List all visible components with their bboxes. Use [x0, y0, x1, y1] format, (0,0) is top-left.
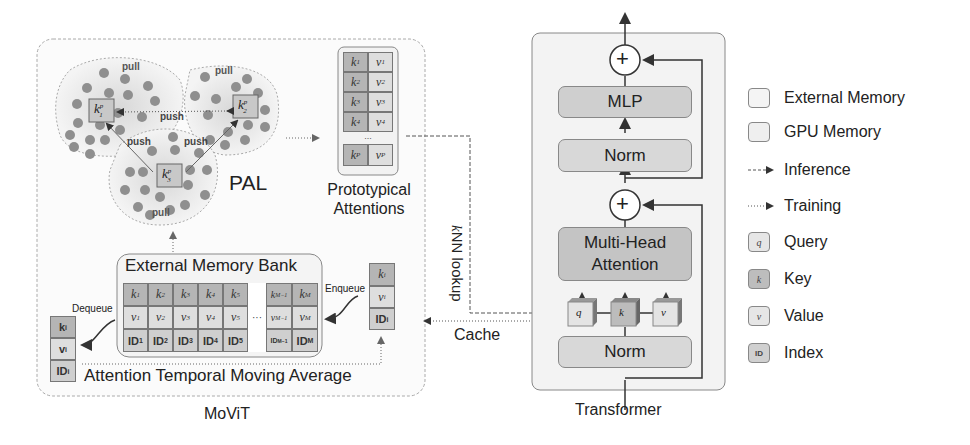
- mlp-block: MLP: [558, 86, 692, 118]
- bank-v-m: vM: [292, 306, 318, 329]
- push-label-top: push: [160, 111, 184, 122]
- norm-block-bottom: Norm: [558, 336, 692, 368]
- push-label-right: push: [184, 136, 208, 147]
- dequeued-v: vi: [50, 338, 76, 360]
- pull-label-2: pull: [215, 65, 233, 76]
- proto-v-3: v3: [368, 92, 393, 112]
- knn-lookup-label: kNN lookup: [448, 225, 466, 302]
- key-swatch-icon: k: [748, 269, 770, 289]
- proto-k-1: k1: [343, 52, 368, 72]
- bank-v-3: v3: [173, 306, 198, 329]
- dequeued-id: IDi: [50, 360, 76, 382]
- dequeued-item: ki vi IDi: [50, 316, 76, 382]
- plus-icon-top: +: [616, 47, 629, 71]
- enqueue-label: Enqueue: [325, 283, 365, 294]
- bank-ellipsis: ···: [248, 283, 266, 352]
- push-label-left: push: [127, 136, 151, 147]
- prototype-k2: kp2: [238, 97, 247, 115]
- bank-k-5: k5: [223, 283, 248, 306]
- movit-caption: MoViT: [204, 405, 250, 423]
- gpu-memory-swatch-icon: [748, 122, 770, 142]
- legend-key: k Key: [748, 268, 812, 290]
- dequeued-k: ki: [50, 316, 76, 338]
- proto-v-4: v4: [368, 112, 393, 132]
- proto-v-p: vP: [368, 144, 393, 166]
- prototypical-attention-table: k1 v1 k2 v2 k3 v3 k4 v4 ... kP vP: [343, 52, 393, 170]
- bank-id-1: ID1: [123, 329, 148, 352]
- bank-k-2: k2: [148, 283, 173, 306]
- bank-k-3: k3: [173, 283, 198, 306]
- bank-v-m-1: vM−1: [266, 306, 292, 329]
- prototypical-attentions-title: Prototypical Attentions: [311, 180, 427, 218]
- bank-k-4: k4: [198, 283, 223, 306]
- legend-query: q Query: [748, 231, 828, 253]
- bank-id-3: ID3: [173, 329, 198, 352]
- bank-k-1: k1: [123, 283, 148, 306]
- bank-k-m: kM: [292, 283, 318, 306]
- value-cube-label: v: [661, 306, 666, 318]
- bank-k-m-1: kM−1: [266, 283, 292, 306]
- key-cube-label: k: [619, 306, 624, 318]
- enqueued-item: ki vi IDi: [369, 263, 395, 330]
- proto-ellipsis: ...: [343, 132, 393, 144]
- legend-external-memory: External Memory: [748, 87, 905, 109]
- transformer-caption: Transformer: [575, 401, 662, 419]
- bank-id-4: ID4: [198, 329, 223, 352]
- legend-value: v Value: [748, 305, 824, 327]
- proto-v-1: v1: [368, 52, 393, 72]
- pal-label: PAL: [229, 171, 267, 195]
- norm-block-top: Norm: [558, 139, 692, 172]
- bank-v-4: v4: [198, 306, 223, 329]
- cache-label: Cache: [454, 326, 500, 344]
- bank-id-5: ID5: [223, 329, 248, 352]
- enqueued-id: IDi: [369, 308, 395, 330]
- query-swatch-icon: q: [748, 232, 770, 252]
- memory-bank-title: External Memory Bank: [125, 256, 297, 276]
- bank-v-5: v5: [223, 306, 248, 329]
- pull-label-1: pull: [122, 61, 140, 72]
- prototype-k3: kp3: [162, 166, 171, 184]
- proto-k-2: k2: [343, 72, 368, 92]
- query-cube-label: q: [576, 306, 582, 318]
- multi-head-attention-block: Multi-Head Attention: [558, 227, 692, 281]
- legend-gpu-memory: GPU Memory: [748, 121, 881, 143]
- proto-k-3: k3: [343, 92, 368, 112]
- bank-id-m-1: IDM−1: [266, 329, 292, 352]
- bank-id-2: ID2: [148, 329, 173, 352]
- bank-v-2: v2: [148, 306, 173, 329]
- prototype-k1: kp1: [94, 101, 103, 119]
- memory-bank-grid: k1 v1 ID1 k2 v2 ID2 k3 v3 ID3 k4 v4 ID4 …: [123, 283, 318, 352]
- plus-icon-bottom: +: [616, 192, 629, 216]
- enqueued-v: vi: [369, 286, 395, 308]
- legend-training: Training: [748, 195, 841, 217]
- index-swatch-icon: ID: [748, 343, 770, 363]
- proto-k-4: k4: [343, 112, 368, 132]
- legend-index: ID Index: [748, 342, 823, 364]
- proto-v-2: v2: [368, 72, 393, 92]
- bank-v-1: v1: [123, 306, 148, 329]
- value-swatch-icon: v: [748, 306, 770, 326]
- legend-inference: Inference: [748, 159, 851, 181]
- pull-label-3: pull: [152, 207, 170, 218]
- atma-label: Attention Temporal Moving Average: [84, 366, 352, 386]
- enqueued-k: ki: [369, 263, 395, 286]
- bank-id-m: IDM: [292, 329, 318, 352]
- external-memory-swatch-icon: [748, 88, 770, 108]
- dequeue-label: Dequeue: [72, 303, 113, 314]
- proto-k-p: kP: [343, 144, 368, 166]
